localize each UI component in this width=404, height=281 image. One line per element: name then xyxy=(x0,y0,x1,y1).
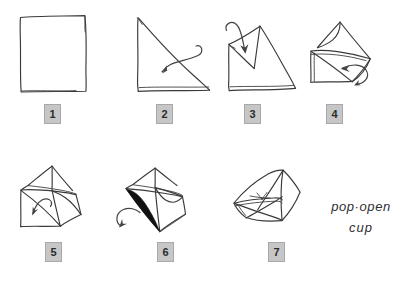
step-1-drawing xyxy=(14,8,98,100)
step-3-drawing xyxy=(216,8,302,100)
step-badge-1: 1 xyxy=(44,104,61,124)
step-6-drawing xyxy=(112,152,204,244)
step-panel-6 xyxy=(112,152,204,244)
step-panel-2 xyxy=(130,8,216,100)
step-panel-3 xyxy=(216,8,302,100)
step-4-drawing xyxy=(300,8,392,100)
step-5-drawing xyxy=(10,152,102,244)
step-panel-1 xyxy=(14,8,98,100)
step-badge-5: 5 xyxy=(45,242,62,262)
step-badge-6: 6 xyxy=(157,242,174,262)
caption-line-1: pop·open xyxy=(322,196,400,217)
step-7-drawing xyxy=(224,160,316,244)
step-badge-3: 3 xyxy=(244,104,261,124)
step-badge-6-label: 6 xyxy=(162,247,168,258)
step-badge-7: 7 xyxy=(268,242,285,262)
step-badge-3-label: 3 xyxy=(249,109,255,120)
step-badge-4: 4 xyxy=(326,104,343,124)
step-panel-4 xyxy=(300,8,392,100)
origami-instruction-diagram: 1 2 xyxy=(0,0,404,281)
step-badge-7-label: 7 xyxy=(273,247,279,258)
step-2-drawing xyxy=(130,8,216,100)
diagram-caption: pop·open cup xyxy=(322,196,400,238)
step-badge-2-label: 2 xyxy=(161,109,167,120)
step-badge-5-label: 5 xyxy=(50,247,56,258)
step-badge-2: 2 xyxy=(156,104,173,124)
step-badge-4-label: 4 xyxy=(331,109,337,120)
step-panel-5 xyxy=(10,152,102,244)
step-panel-7 xyxy=(224,160,316,244)
step-badge-1-label: 1 xyxy=(49,109,55,120)
caption-line-2: cup xyxy=(322,217,400,238)
